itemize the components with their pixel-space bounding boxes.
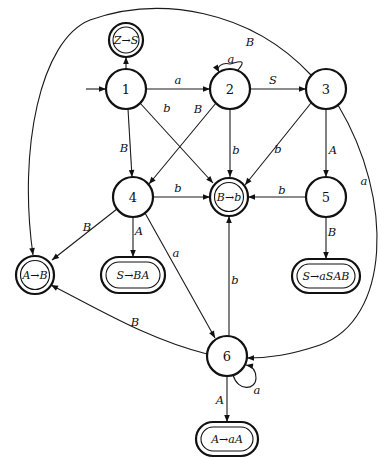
edge-4-to-AB: [52, 209, 117, 260]
state-6-label: 6: [223, 349, 231, 364]
state-4-label: 4: [129, 190, 137, 205]
label-2-Bb: b: [232, 143, 239, 157]
label-4-AB: B: [82, 220, 91, 234]
edge-3-to-6: [247, 105, 377, 358]
label-1-Bb: b: [163, 101, 170, 115]
label-3-AB: B: [245, 35, 254, 49]
state-3[interactable]: 3: [306, 69, 346, 109]
label-5-SaSAB: B: [327, 225, 336, 239]
state-3-label: 3: [322, 82, 330, 97]
edge-1-to-4: [128, 109, 132, 177]
label-5-Bb: b: [278, 183, 285, 197]
final-state-S-BA[interactable]: S→BA: [101, 257, 165, 293]
label-2-3: S: [269, 73, 277, 87]
final-state-A-B-label: A→B: [21, 269, 47, 282]
final-state-Z-S-label: Z→S: [113, 34, 139, 47]
final-state-S-aSAB[interactable]: S→aSAB: [292, 259, 360, 293]
label-2-loop: a: [228, 52, 235, 66]
state-1-label: 1: [122, 82, 130, 97]
label-4-Bb: b: [174, 181, 181, 195]
label-3-6: a: [361, 174, 368, 188]
state-diagram: S a b B a S B b B b A a b B A a b B b B …: [0, 0, 381, 460]
label-4-SBA: A: [134, 224, 143, 238]
final-state-B-b[interactable]: B→b: [210, 178, 248, 216]
label-6-AaA: A: [215, 393, 224, 407]
label-3-Bb: b: [274, 142, 281, 156]
state-2-label: 2: [226, 82, 234, 97]
edge-3-to-AB: [28, 9, 311, 255]
final-state-A-aA-label: A→aA: [210, 433, 243, 446]
edge-6-to-AB: [51, 285, 207, 354]
label-2-4: B: [193, 102, 202, 116]
label-1-2: a: [175, 73, 182, 87]
final-state-Z-S[interactable]: Z→S: [109, 23, 143, 57]
final-state-S-aSAB-label: S→aSAB: [303, 270, 350, 283]
state-2[interactable]: 2: [210, 69, 250, 109]
label-6-AB: B: [130, 315, 139, 329]
label-4-6: a: [173, 246, 180, 260]
edge-2-to-4: [149, 103, 216, 184]
state-4[interactable]: 4: [113, 177, 153, 217]
label-3-5: A: [328, 143, 337, 157]
state-1[interactable]: 1: [106, 69, 146, 109]
final-state-A-B[interactable]: A→B: [16, 256, 54, 294]
state-5[interactable]: 5: [306, 177, 346, 217]
state-6[interactable]: 6: [207, 336, 247, 376]
final-state-A-aA[interactable]: A→aA: [196, 422, 258, 456]
label-1-4: B: [119, 141, 128, 155]
state-5-label: 5: [322, 190, 330, 205]
label-6-Bb: b: [231, 273, 238, 287]
label-6-loop: a: [254, 383, 261, 397]
final-state-B-b-label: B→b: [216, 191, 241, 204]
final-state-S-BA-label: S→BA: [117, 269, 150, 282]
